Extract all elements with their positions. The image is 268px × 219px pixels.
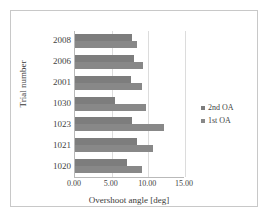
bar-1st-oa <box>75 104 146 111</box>
x-axis-tick-labels: 0.005.0010.0015.00 <box>74 180 184 192</box>
bar-2nd-oa <box>75 76 131 83</box>
x-axis-line <box>74 177 184 178</box>
bar-2nd-oa <box>75 117 132 124</box>
bar-1st-oa <box>75 62 143 69</box>
plot-area <box>74 31 184 177</box>
legend-item: 1st OA <box>201 117 234 125</box>
x-tick-label: 5.00 <box>104 180 118 188</box>
bar-2nd-oa <box>75 159 127 166</box>
legend-swatch-icon <box>201 106 205 110</box>
bar-1st-oa <box>75 83 142 90</box>
legend-label: 1st OA <box>208 117 231 125</box>
bar-1st-oa <box>75 145 153 152</box>
bar-2nd-oa <box>75 55 134 62</box>
x-tick-label: 0.00 <box>67 180 81 188</box>
bar-2nd-oa <box>75 138 137 145</box>
y-tick-label: 2006 <box>43 57 71 66</box>
y-axis-title: Trial number <box>18 44 28 124</box>
bar-1st-oa <box>75 124 164 131</box>
y-axis-tick-labels: 2008200620011030102310211020 <box>41 31 71 177</box>
y-tick-label: 2008 <box>43 36 71 45</box>
chart-frame: Trial number 200820062001103010231021102… <box>10 10 258 207</box>
x-tick-label: 10.00 <box>138 180 156 188</box>
legend-label: 2nd OA <box>208 104 234 112</box>
x-axis-title: Overshoot angle [deg] <box>74 195 184 205</box>
y-tick-label: 2001 <box>43 78 71 87</box>
legend-swatch-icon <box>201 119 205 123</box>
y-tick-label: 1030 <box>43 99 71 108</box>
legend: 2nd OA1st OA <box>201 104 234 130</box>
y-tick-label: 1021 <box>43 141 71 150</box>
y-tick-label: 1023 <box>43 120 71 129</box>
bar-2nd-oa <box>75 97 115 104</box>
y-tick-label: 1020 <box>43 162 71 171</box>
legend-item: 2nd OA <box>201 104 234 112</box>
bar-1st-oa <box>75 166 142 173</box>
x-tick-label: 15.00 <box>175 180 193 188</box>
gridline <box>185 31 186 177</box>
bar-1st-oa <box>75 41 137 48</box>
gridline <box>148 31 149 177</box>
bar-2nd-oa <box>75 34 132 41</box>
